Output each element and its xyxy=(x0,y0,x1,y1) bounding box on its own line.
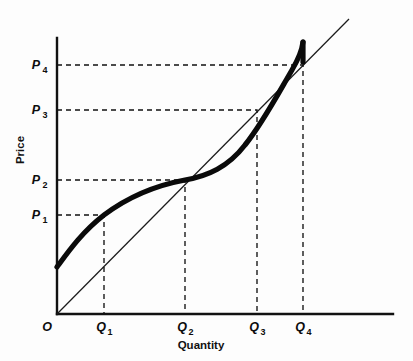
chart-canvas: P 1 P 2 P 3 P 4 Q 1 Q 2 Q 3 Q 4 O Price … xyxy=(0,0,413,361)
y-tick-subscript-p3: 3 xyxy=(42,110,47,120)
x-tick-label-q4: Q xyxy=(295,320,305,334)
y-tick-subscript-p1: 1 xyxy=(42,215,47,225)
y-tick-labels-group: P 1 P 2 P 3 P 4 xyxy=(32,58,48,225)
axes-group xyxy=(57,38,393,314)
y-tick-label-p4: P xyxy=(32,58,41,72)
y-tick-label-p1: P xyxy=(32,208,41,222)
guide-line-p1-q1 xyxy=(57,215,104,314)
supply-curve-path xyxy=(57,42,303,267)
y-tick-subscript-p4: 4 xyxy=(42,65,47,75)
x-tick-subscript-q1: 1 xyxy=(107,327,112,337)
x-tick-subscript-q4: 4 xyxy=(306,327,311,337)
supply-curve-figure: P 1 P 2 P 3 P 4 Q 1 Q 2 Q 3 Q 4 O Price … xyxy=(0,0,413,361)
x-tick-subscript-q3: 3 xyxy=(260,327,265,337)
x-tick-label-q2: Q xyxy=(177,320,187,334)
y-tick-subscript-p2: 2 xyxy=(42,180,47,190)
x-tick-labels-group: Q 1 Q 2 Q 3 Q 4 xyxy=(96,320,311,337)
x-tick-label-q1: Q xyxy=(96,320,106,334)
y-axis-title: Price xyxy=(14,136,26,164)
origin-label: O xyxy=(42,320,52,334)
x-axis-title: Quantity xyxy=(178,339,225,351)
x-tick-subscript-q2: 2 xyxy=(188,327,193,337)
supply-curve-group xyxy=(57,42,303,267)
x-tick-label-q3: Q xyxy=(249,320,259,334)
y-tick-label-p2: P xyxy=(32,173,41,187)
y-tick-label-p3: P xyxy=(32,103,41,117)
